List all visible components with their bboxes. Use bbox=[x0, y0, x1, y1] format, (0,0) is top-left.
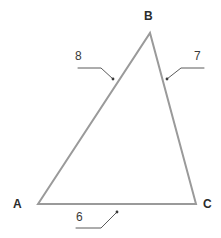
triangle-shape bbox=[38, 33, 196, 204]
geometry-figure: B A C 8 7 6 bbox=[0, 0, 221, 238]
side-length-label-bc: 7 bbox=[194, 50, 201, 62]
vertex-label-b: B bbox=[144, 10, 153, 22]
vertex-label-a: A bbox=[13, 198, 22, 210]
vertex-label-c: C bbox=[203, 198, 212, 210]
leader-dot-side-ac bbox=[116, 211, 119, 214]
leader-dot-side-ab bbox=[112, 78, 115, 81]
leader-dot-side-bc bbox=[166, 78, 169, 81]
side-length-label-ac: 6 bbox=[76, 211, 83, 223]
triangle-diagram-svg bbox=[0, 0, 221, 238]
side-length-label-ab: 8 bbox=[75, 50, 82, 62]
leader-line-side-ab bbox=[78, 68, 113, 79]
leader-line-side-bc bbox=[167, 68, 204, 79]
